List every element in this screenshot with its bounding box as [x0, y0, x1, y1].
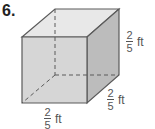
depth-label: 2 5 ft [107, 88, 125, 111]
height-label: 2 5 ft [126, 30, 144, 53]
depth-fraction: 2 5 [107, 88, 114, 111]
width-label: 2 5 ft [44, 107, 62, 129]
width-fraction: 2 5 [44, 107, 51, 129]
cube-diagram [0, 0, 155, 129]
height-fraction: 2 5 [126, 30, 133, 53]
